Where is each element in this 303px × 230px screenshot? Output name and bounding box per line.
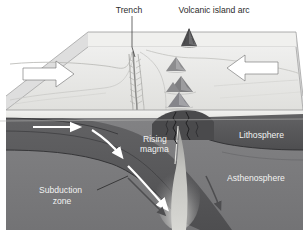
subduction-zone-figure: Trench Volcanic island arc Rising magma … <box>0 0 303 230</box>
block-diagram-svg: Trench Volcanic island arc Rising magma … <box>0 0 303 230</box>
label-rising-magma-line2: magma <box>140 144 169 154</box>
label-lithosphere: Lithosphere <box>239 130 284 140</box>
label-rising-magma-line1: Rising <box>143 134 167 144</box>
label-subduction-zone-line1: Subduction <box>39 185 82 195</box>
label-trench: Trench <box>116 5 143 15</box>
cross-section-face <box>0 110 303 230</box>
label-asthenosphere: Asthenosphere <box>227 173 285 183</box>
label-subduction-zone-line2: zone <box>53 196 72 206</box>
label-volcanic-island-arc: Volcanic island arc <box>178 5 250 15</box>
